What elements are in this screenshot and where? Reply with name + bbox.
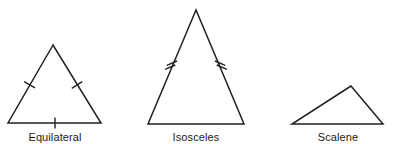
isosceles-triangle-figure: [148, 10, 244, 124]
equilateral-triangle-outline: [8, 45, 101, 123]
isosceles-label: Isosceles: [146, 131, 246, 143]
isosceles-right-leg-tick-1: [215, 61, 225, 65]
isosceles-left-leg-tick-1: [167, 61, 177, 65]
scalene-triangle-figure: [292, 86, 383, 124]
isosceles-triangle-outline: [148, 10, 244, 124]
isosceles-right-leg-tick-2: [217, 65, 227, 69]
scalene-triangle-outline: [292, 86, 383, 124]
triangle-types-diagram: Equilateral Isosceles Scalene: [0, 0, 393, 154]
equilateral-label: Equilateral: [0, 131, 110, 143]
isosceles-left-leg-tick-2: [165, 65, 175, 69]
equilateral-triangle-figure: [8, 45, 101, 129]
scalene-label: Scalene: [288, 131, 388, 143]
